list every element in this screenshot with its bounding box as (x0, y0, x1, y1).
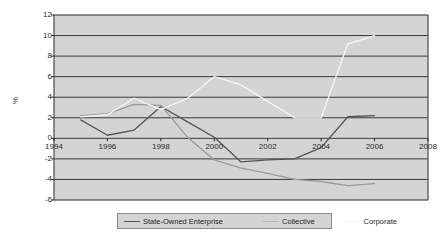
x-tick-label: 2006 (360, 143, 390, 151)
chart-legend: State-Owned EnterpriseCollectiveCorporat… (117, 213, 332, 229)
legend-item[interactable]: State-Owned Enterprise (124, 217, 223, 226)
x-tick-label: 2004 (306, 143, 336, 151)
legend-item[interactable]: Corporate (345, 217, 397, 226)
x-tick-label: 2000 (199, 143, 229, 151)
legend-label: State-Owned Enterprise (143, 217, 223, 226)
x-tick-label: 1998 (146, 143, 176, 151)
legend-line-swatch (345, 221, 361, 222)
legend-label: Corporate (364, 217, 397, 226)
x-tick-label: 1996 (92, 143, 122, 151)
line-chart: % -6-4-2024681012 1994199619982000200220… (0, 0, 443, 248)
x-tick-label: 2002 (253, 143, 283, 151)
legend-item[interactable]: Collective (263, 217, 315, 226)
x-tick-label: 1994 (39, 143, 69, 151)
legend-line-swatch (263, 221, 279, 222)
legend-label: Collective (282, 217, 315, 226)
plot-background (54, 15, 428, 200)
plot-area (0, 0, 443, 248)
legend-line-swatch (124, 221, 140, 222)
x-tick-label: 2008 (413, 143, 443, 151)
